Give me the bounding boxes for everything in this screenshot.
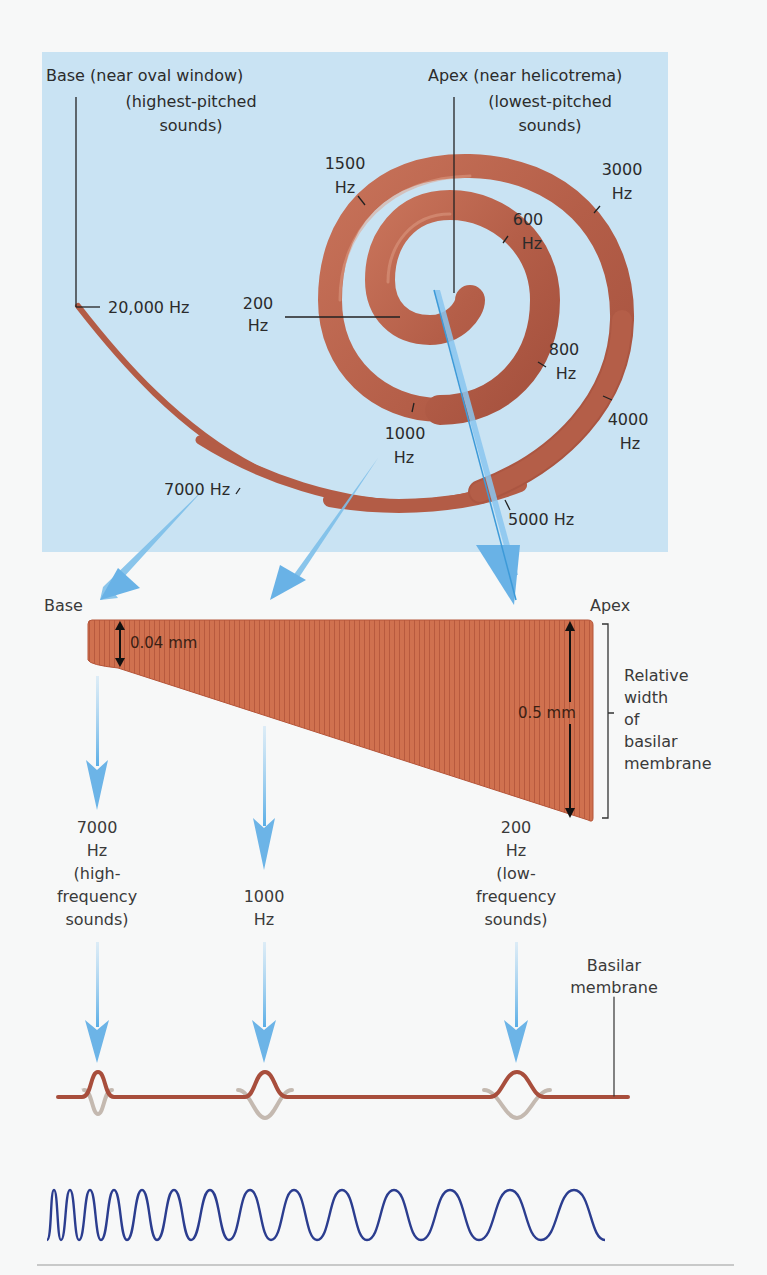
freq-label-1000-unit: Hz <box>384 448 424 468</box>
response-7000-desc-1: (high- <box>47 864 147 884</box>
diagram-graphics <box>0 0 767 1275</box>
freq-label-7000: 7000 Hz <box>164 480 230 500</box>
bracket-label-line-4: basilar <box>624 732 678 752</box>
base-label: Base (near oval window) <box>46 66 243 86</box>
freq-label-1500: 1500 <box>320 154 370 174</box>
base-width-label: 0.04 mm <box>130 634 197 653</box>
response-7000-unit: Hz <box>47 841 147 861</box>
basilar-membrane-label-1: Basilar <box>564 956 664 976</box>
freq-label-4000: 4000 <box>602 410 654 430</box>
freq-label-1000: 1000 <box>380 424 430 444</box>
bracket-label-line-3: of <box>624 710 639 730</box>
basilar-membrane-label-2: membrane <box>564 978 664 998</box>
freq-label-800-unit: Hz <box>546 364 586 384</box>
freq-label-3000-unit: Hz <box>602 184 642 204</box>
freq-label-600: 600 <box>508 210 548 230</box>
response-7000-desc-2: frequency <box>47 887 147 907</box>
freq-label-200: 200 <box>238 294 278 314</box>
freq-label-600-unit: Hz <box>512 234 552 254</box>
bracket-label-line-1: Relative <box>624 666 689 686</box>
freq-label-20000: 20,000 Hz <box>108 298 190 318</box>
response-200-desc-2: frequency <box>466 887 566 907</box>
response-200-unit: Hz <box>466 841 566 861</box>
freq-label-3000: 3000 <box>596 160 648 180</box>
apex-width-label: 0.5 mm <box>518 704 576 723</box>
response-7000-freq: 7000 <box>47 818 147 838</box>
down-arrows-lower <box>85 942 528 1063</box>
response-1000-unit: Hz <box>224 910 304 930</box>
membrane-base-label: Base <box>44 596 83 616</box>
freq-label-5000: 5000 Hz <box>508 510 574 530</box>
base-sublabel-1: (highest-pitched <box>106 92 276 112</box>
freq-label-800: 800 <box>544 340 584 360</box>
bracket-label-line-2: width <box>624 688 668 708</box>
response-200-freq: 200 <box>466 818 566 838</box>
response-200-desc-3: sounds) <box>466 910 566 930</box>
membrane-apex-label: Apex <box>590 596 630 616</box>
sound-wave-icon <box>47 1190 605 1240</box>
apex-sublabel-2: sounds) <box>470 116 630 136</box>
response-7000-desc-3: sounds) <box>47 910 147 930</box>
bracket-label-line-5: membrane <box>624 754 712 774</box>
base-sublabel-2: sounds) <box>106 116 276 136</box>
response-1000-freq: 1000 <box>224 887 304 907</box>
freq-label-200-unit: Hz <box>238 316 278 336</box>
apex-sublabel-1: (lowest-pitched <box>470 92 630 112</box>
response-200-desc-1: (low- <box>466 864 566 884</box>
basilar-membrane-response-line <box>58 997 628 1118</box>
apex-label: Apex (near helicotrema) <box>428 66 622 86</box>
freq-label-4000-unit: Hz <box>610 434 650 454</box>
freq-label-1500-unit: Hz <box>320 178 370 198</box>
